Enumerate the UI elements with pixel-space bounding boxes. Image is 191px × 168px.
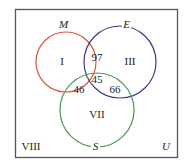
universe-label: U	[162, 140, 171, 152]
region-m-s: 46	[74, 83, 86, 95]
set-m-label: M	[58, 18, 69, 30]
set-e-label: E	[122, 18, 130, 30]
region-only-m: I	[60, 55, 64, 67]
region-all-three: 45	[92, 73, 104, 85]
venn-diagram: M E S I 97 III 45 46 66 VII VIII U	[0, 0, 191, 168]
region-only-s: VII	[89, 108, 105, 120]
region-only-e: III	[125, 55, 136, 67]
region-outside: VIII	[22, 140, 41, 152]
region-e-s: 66	[110, 83, 122, 95]
set-s-label: S	[93, 140, 99, 152]
region-m-e: 97	[92, 51, 104, 63]
